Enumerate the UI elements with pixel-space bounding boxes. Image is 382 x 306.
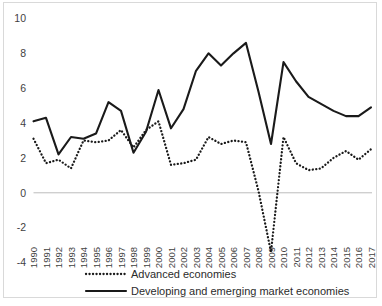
legend-label[interactable]: Developing and emerging market economies (131, 285, 350, 297)
y-axis-tick-label: 8 (20, 47, 26, 59)
x-axis-tick-label: 1994 (78, 247, 89, 268)
x-axis-tick-label: 1993 (66, 247, 77, 268)
series-line-advanced (34, 121, 372, 252)
y-axis-tick-label: 2 (20, 152, 26, 164)
y-axis-tick-label: 6 (20, 82, 26, 94)
x-axis-tick-label: 2010 (278, 247, 289, 268)
x-axis-tick-label: 2005 (216, 247, 227, 268)
y-axis-tick-labels: 1086420-2-4 (14, 12, 26, 268)
x-axis-tick-label: 1996 (103, 247, 114, 268)
y-axis-tick-label: 0 (20, 187, 26, 199)
x-axis-tick-label: 2015 (341, 247, 352, 268)
y-axis-tick-label: 4 (20, 117, 26, 129)
x-axis-tick-labels: 1990199119921993199419951996199719981999… (28, 247, 377, 268)
y-axis-tick-label: -2 (17, 221, 26, 233)
x-axis-tick-label: 1990 (28, 247, 39, 268)
x-axis-tick-label: 2006 (228, 247, 239, 268)
x-axis-tick-label: 2012 (303, 247, 314, 268)
line-chart-plot: 1086420-2-4 1990199119921993199419951996… (0, 0, 382, 306)
x-axis-tick-label: 2004 (203, 247, 214, 268)
x-axis-tick-label: 2011 (291, 247, 302, 267)
x-axis-tick-label: 2016 (353, 247, 364, 268)
x-axis-tick-label: 1992 (53, 247, 64, 268)
chart-legend: Advanced economiesDeveloping and emergin… (86, 268, 350, 297)
x-axis-tick-label: 1998 (128, 247, 139, 268)
y-axis-tick-label: 10 (14, 12, 26, 24)
x-axis-tick-label: 1997 (116, 247, 127, 268)
x-axis-tick-label: 1999 (141, 247, 152, 268)
x-axis-tick-label: 2017 (366, 247, 377, 268)
x-axis-tick-label: 2000 (153, 247, 164, 268)
chart-container: 1086420-2-4 1990199119921993199419951996… (0, 0, 382, 306)
legend-label[interactable]: Advanced economies (131, 268, 237, 280)
y-axis-tick-label: -4 (17, 256, 26, 268)
x-axis-tick-label: 2001 (166, 247, 177, 268)
series-paths (34, 43, 372, 252)
x-axis-tick-label: 2007 (241, 247, 252, 268)
x-axis-tick-label: 2014 (328, 247, 339, 268)
x-axis-tick-label: 2008 (253, 247, 264, 268)
x-axis-tick-label: 2002 (178, 247, 189, 268)
x-axis-tick-label: 1991 (41, 247, 52, 268)
x-axis-tick-label: 1995 (91, 247, 102, 268)
x-axis-tick-label: 2013 (316, 247, 327, 268)
x-axis-tick-label: 2003 (191, 247, 202, 268)
series-line-developing (34, 43, 372, 155)
